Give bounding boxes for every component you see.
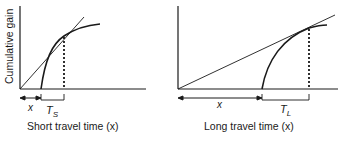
left-t-bracket bbox=[41, 94, 64, 100]
left-t-marker: TS bbox=[46, 104, 59, 119]
right-caption: Long travel time (x) bbox=[204, 120, 294, 132]
right-arrow-head-right bbox=[257, 96, 262, 100]
left-gain-curve bbox=[41, 24, 100, 89]
right-graph bbox=[178, 6, 338, 100]
left-x-marker: x bbox=[27, 102, 34, 113]
right-tangent-line bbox=[178, 15, 335, 89]
left-arrow-head-left bbox=[20, 96, 25, 100]
left-graph bbox=[20, 6, 146, 100]
right-gain-curve bbox=[262, 25, 327, 89]
right-arrow-head-left bbox=[178, 96, 183, 100]
left-tangent-line bbox=[20, 17, 84, 89]
left-y-label: Cumulative gain bbox=[3, 9, 15, 84]
right-t-marker: TL bbox=[280, 103, 291, 118]
left-arrow-head-right bbox=[36, 96, 41, 100]
right-t-bracket bbox=[262, 94, 309, 100]
diagram: Cumulative gain x TS Short travel time (… bbox=[0, 0, 344, 148]
right-x-marker: x bbox=[216, 99, 223, 110]
left-caption: Short travel time (x) bbox=[27, 120, 119, 132]
